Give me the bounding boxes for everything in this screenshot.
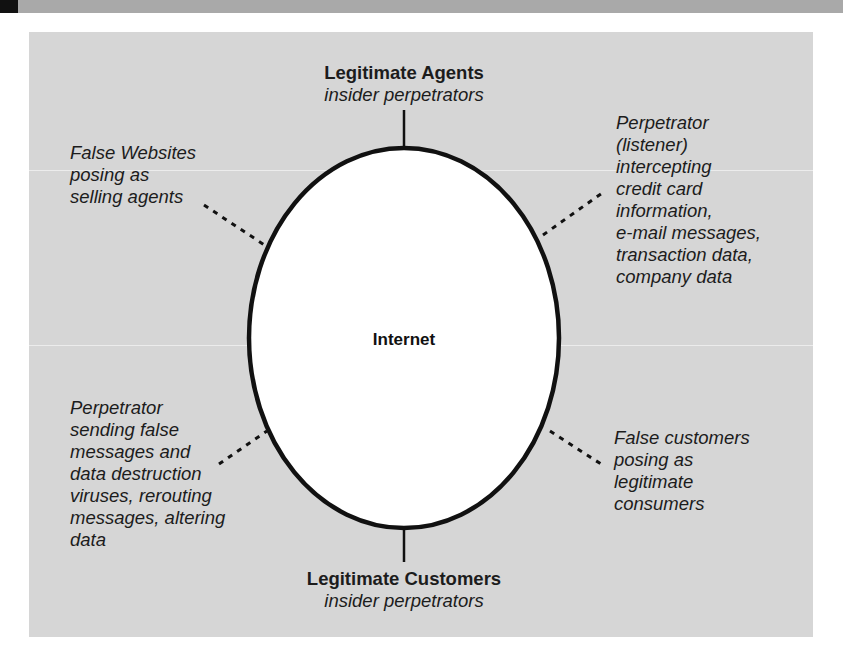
top-node-subtitle: insider perpetrators: [0, 84, 808, 106]
threat-line: data: [70, 529, 225, 551]
threat-line: e-mail messages,: [616, 222, 761, 244]
top-right-dotted-connector: [543, 191, 605, 235]
threat-line: intercepting: [616, 156, 761, 178]
bottom-left-dotted-connector: [219, 431, 267, 464]
threat-line: Perpetrator: [70, 397, 225, 419]
threat-line: sending false: [70, 419, 225, 441]
top-node-title: Legitimate Agents: [0, 62, 808, 84]
threat-listener-intercepting: Perpetrator (listener) intercepting cred…: [616, 112, 761, 288]
top-left-dotted-connector: [204, 205, 266, 246]
threat-line: legitimate: [614, 471, 750, 493]
threat-line: viruses, rerouting: [70, 485, 225, 507]
internet-label: Internet: [0, 330, 808, 350]
threat-line: company data: [616, 266, 761, 288]
bottom-node-title: Legitimate Customers: [0, 568, 808, 590]
threat-line: consumers: [614, 493, 750, 515]
threat-line: messages and: [70, 441, 225, 463]
bottom-node-subtitle: insider perpetrators: [0, 590, 808, 612]
threat-line: messages, altering: [70, 507, 225, 529]
threat-line: posing as: [70, 164, 196, 186]
threat-false-customers: False customers posing as legitimate con…: [614, 427, 750, 515]
threat-line: False Websites: [70, 142, 196, 164]
threat-line: (listener): [616, 134, 761, 156]
threat-line: posing as: [614, 449, 750, 471]
threat-line: information,: [616, 200, 761, 222]
threat-line: data destruction: [70, 463, 225, 485]
threat-line: False customers: [614, 427, 750, 449]
threat-line: selling agents: [70, 186, 196, 208]
figure-page: Legitimate Agents insider perpetrators I…: [0, 0, 843, 666]
threat-line: transaction data,: [616, 244, 761, 266]
bottom-right-dotted-connector: [550, 431, 601, 464]
threat-line: Perpetrator: [616, 112, 761, 134]
threat-line: credit card: [616, 178, 761, 200]
threat-false-websites: False Websites posing as selling agents: [70, 142, 196, 208]
threat-false-messages: Perpetrator sending false messages and d…: [70, 397, 225, 551]
